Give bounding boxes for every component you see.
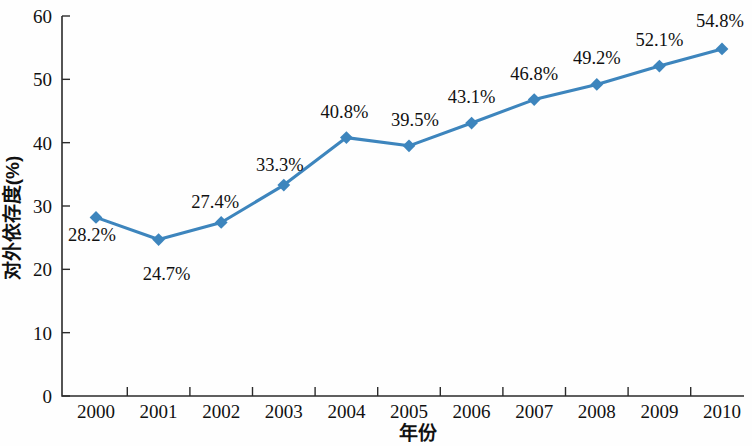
x-tick-label: 2010 [703,401,741,422]
y-tick-label: 50 [33,69,52,90]
x-tick-label: 2003 [265,401,303,422]
data-point-label: 28.2% [68,225,116,245]
x-axis-title: 年份 [399,422,438,444]
x-tick-label: 2008 [578,401,616,422]
data-point-label: 49.2% [573,48,621,68]
chart-canvas: 0102030405060 28.2%24.7%27.4%33.3%40.8%3… [0,0,752,446]
data-point-label: 39.5% [391,110,439,130]
line-chart: 0102030405060 28.2%24.7%27.4%33.3%40.8%3… [0,0,752,446]
y-tick-label: 0 [43,386,53,407]
data-point-label: 24.7% [143,264,191,284]
y-tick-label: 60 [33,6,52,27]
data-point-label: 43.1% [448,87,496,107]
y-tick-label: 30 [33,196,52,217]
data-point-label: 27.4% [191,192,239,212]
data-point-label: 46.8% [510,64,558,84]
x-tick-label: 2007 [515,401,553,422]
data-point-label: 40.8% [321,102,369,122]
y-tick-label: 10 [33,323,52,344]
y-tick-label: 20 [33,259,52,280]
x-tick-label: 2000 [77,401,115,422]
y-axis-title: 对外依存度(%) [1,156,23,281]
x-tick-label: 2005 [390,401,428,422]
data-point-label: 54.8% [696,11,744,31]
data-point-label: 33.3% [256,155,304,175]
data-point-label: 52.1% [636,30,684,50]
x-axis-tick-labels: 2000200120022003200420052006200720082009… [77,401,741,422]
x-tick-label: 2006 [453,401,491,422]
y-tick-label: 40 [33,133,52,154]
x-tick-label: 2001 [140,401,178,422]
x-tick-label: 2009 [640,401,678,422]
x-tick-label: 2004 [327,401,366,422]
x-tick-label: 2002 [202,401,240,422]
